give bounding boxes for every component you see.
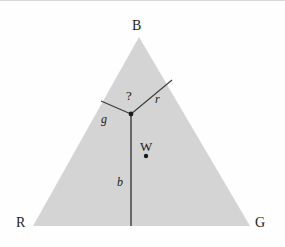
angle-question-mark: ? bbox=[126, 89, 132, 102]
white-point-label: W bbox=[140, 140, 152, 153]
rgb-gamut-triangle bbox=[33, 37, 250, 226]
segment-label-g: g bbox=[101, 113, 107, 125]
vertex-label-green: G bbox=[255, 216, 265, 230]
white-point-dot bbox=[144, 154, 148, 158]
segment-label-r: r bbox=[155, 93, 160, 105]
figure-root: B R G r g b W ? bbox=[0, 0, 285, 247]
vertex-label-blue: B bbox=[132, 19, 141, 33]
vertex-label-red: R bbox=[16, 216, 25, 230]
segment-label-b: b bbox=[117, 176, 123, 188]
junction-dot bbox=[129, 112, 134, 117]
rgb-triangle-diagram bbox=[0, 1, 285, 247]
